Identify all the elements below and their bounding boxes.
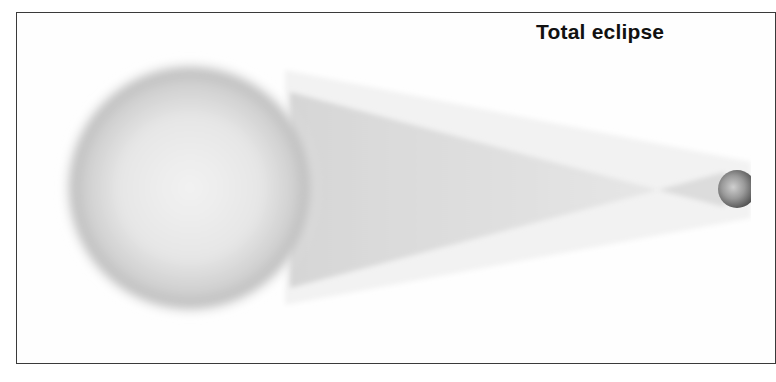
diagram-title: Total eclipse xyxy=(536,20,664,44)
sun xyxy=(62,60,318,316)
